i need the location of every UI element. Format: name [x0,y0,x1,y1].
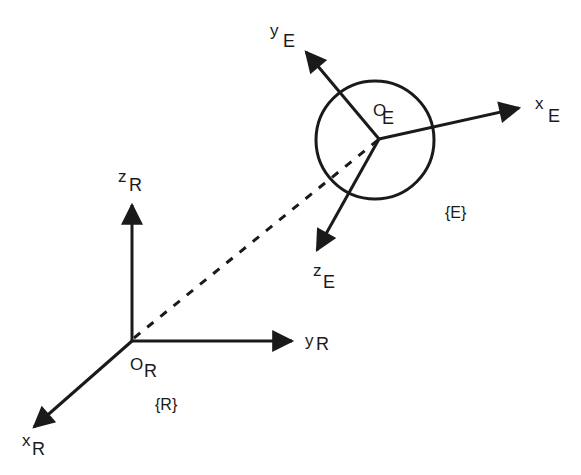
frame-e-body-circle [316,81,434,199]
frame-r-z-axis-label: zR [118,168,127,185]
frame-e-z-axis [317,139,379,250]
coordinate-frames-diagram [0,0,581,475]
frame-e-origin-label: OE [373,102,386,119]
frame-e-x-axis [379,108,519,139]
frame-e-y-axis-label: yE [270,22,279,39]
position-vector-dashed-line [134,140,378,338]
frame-r-y-axis-label: yR [305,332,314,349]
frame-r-origin-label: OR [130,356,143,373]
frame-e-name-label: {E} [445,205,466,221]
frame-e-x-axis-label: xE [535,95,544,112]
frame-e-axes [306,52,519,250]
frame-r-x-axis [34,341,132,427]
frame-r-name-label: {R} [155,397,177,413]
frame-e-z-axis-label: zE [313,262,322,279]
frame-r-x-axis-label: xR [22,432,31,449]
